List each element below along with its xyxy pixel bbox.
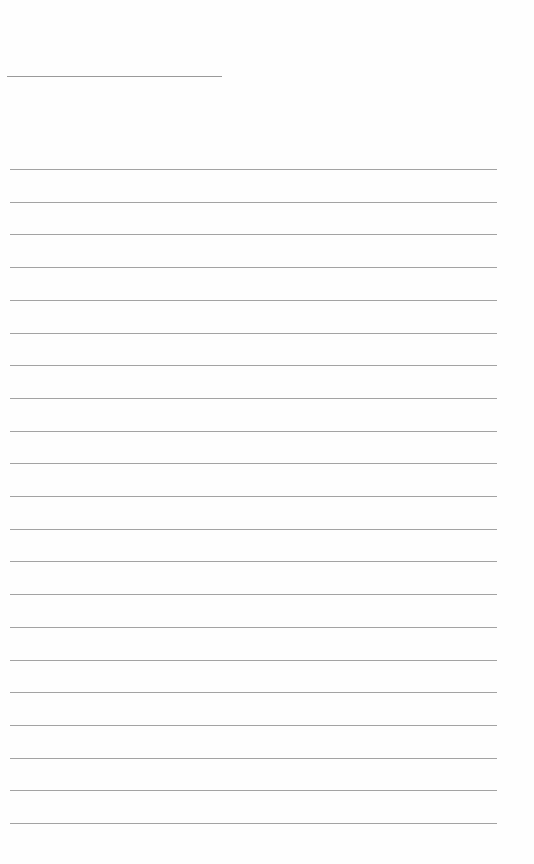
- ruled-line: [10, 529, 497, 530]
- ruled-line: [10, 202, 497, 203]
- ruled-line: [10, 169, 497, 170]
- ruled-line: [10, 267, 497, 268]
- ruled-line: [10, 300, 497, 301]
- ruled-line: [10, 660, 497, 661]
- ruled-line: [10, 627, 497, 628]
- ruled-line: [10, 561, 497, 562]
- ruled-line: [10, 823, 497, 824]
- ruled-line: [10, 725, 497, 726]
- ruled-line: [10, 365, 497, 366]
- ruled-line: [10, 758, 497, 759]
- ruled-line: [10, 333, 497, 334]
- ruled-lines: [0, 0, 534, 864]
- ruled-line: [10, 594, 497, 595]
- ruled-line: [10, 463, 497, 464]
- ruled-line: [10, 790, 497, 791]
- lined-paper-page: [0, 0, 534, 864]
- ruled-line: [10, 692, 497, 693]
- ruled-line: [10, 431, 497, 432]
- ruled-line: [10, 234, 497, 235]
- ruled-line: [10, 398, 497, 399]
- ruled-line: [10, 496, 497, 497]
